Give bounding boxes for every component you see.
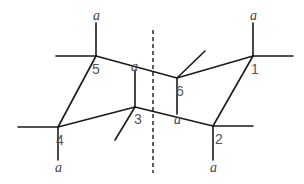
atom-label-1: 1	[251, 61, 259, 77]
atom-label-5: 5	[92, 61, 100, 77]
axial-label-6: a	[174, 112, 181, 127]
axial-labels: a a a a a a	[55, 8, 257, 175]
axial-label-1: a	[250, 8, 257, 23]
axial-label-4: a	[55, 160, 62, 175]
axial-label-2: a	[210, 160, 217, 175]
chair-conformation-diagram: 5 1 6 3 4 2 a a a a a a	[0, 0, 304, 184]
atom-label-3: 3	[134, 111, 142, 127]
atom-label-6: 6	[176, 83, 184, 99]
ring-bonds	[58, 56, 253, 127]
atom-label-2: 2	[215, 131, 223, 147]
axial-label-3: a	[131, 59, 138, 74]
bond-4-5	[58, 56, 96, 127]
axial-label-5: a	[93, 8, 100, 23]
bond-3-4	[58, 107, 135, 127]
atom-label-4: 4	[56, 132, 64, 148]
